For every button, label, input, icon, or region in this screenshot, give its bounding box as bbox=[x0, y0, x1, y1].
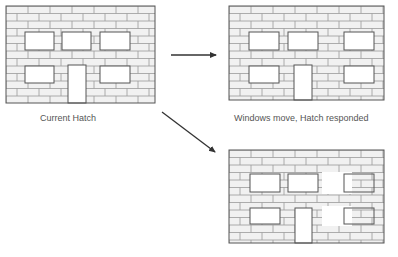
window bbox=[100, 66, 130, 83]
old-window-gap bbox=[322, 206, 352, 226]
window bbox=[288, 174, 318, 192]
door bbox=[68, 65, 86, 103]
panel-hatch-not-responded bbox=[229, 150, 384, 243]
window bbox=[100, 32, 130, 50]
arrow-diagonal bbox=[162, 112, 215, 152]
caption-hatch-responded: Windows move, Hatch responded bbox=[234, 113, 369, 123]
window-moved bbox=[344, 32, 374, 50]
diagram-canvas bbox=[0, 0, 398, 257]
panel-hatch-responded bbox=[229, 6, 384, 100]
old-window-gap bbox=[322, 172, 352, 194]
window bbox=[25, 32, 54, 50]
window bbox=[288, 32, 318, 50]
window bbox=[25, 66, 54, 83]
door bbox=[295, 208, 312, 243]
window bbox=[250, 208, 280, 224]
window bbox=[249, 66, 279, 83]
caption-current-hatch: Current Hatch bbox=[40, 113, 96, 123]
window bbox=[62, 32, 91, 50]
panel-current-hatch bbox=[6, 6, 155, 103]
window bbox=[250, 174, 280, 192]
window bbox=[249, 32, 279, 50]
window-moved bbox=[344, 66, 374, 83]
door bbox=[294, 65, 312, 100]
